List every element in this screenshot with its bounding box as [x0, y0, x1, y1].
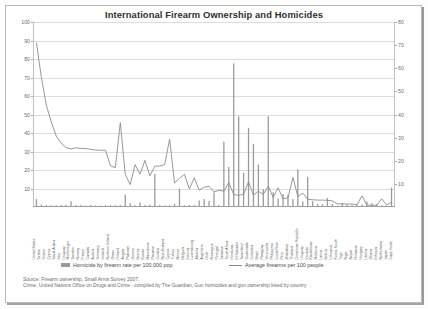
right-axis-tick — [395, 22, 397, 23]
right-axis-tick-label: 40 — [398, 112, 404, 118]
bar-72 — [391, 188, 392, 206]
category-label: Zimbabwe — [286, 244, 290, 260]
bar-40 — [233, 63, 234, 206]
category-axis-labels: United StatesSerbiaYemenCyprusSaudi Arab… — [33, 208, 395, 260]
bar-3 — [51, 205, 52, 206]
category-label: Ethiopia — [375, 247, 379, 260]
category-label: Iraq — [58, 254, 62, 260]
legend-label-homicide: Homicide by firearm rate per 100,000 pop — [73, 262, 172, 268]
source-line-2: Crime, United Nations Office on Drugs an… — [23, 283, 413, 289]
bar-27 — [169, 205, 170, 206]
left-axis-tick-label: 50 — [24, 112, 30, 118]
left-axis-tick-label: 70 — [24, 75, 30, 81]
bar-15 — [110, 205, 111, 206]
bar-0 — [36, 199, 37, 206]
bar-48 — [273, 192, 274, 206]
left-axis-tick-label: 10 — [24, 186, 30, 192]
bar-70 — [381, 205, 382, 206]
left-axis-tick-label: 20 — [24, 167, 30, 173]
category-label: Serbia — [38, 250, 42, 260]
bar-50 — [282, 194, 283, 206]
left-axis-tick-label: 60 — [24, 93, 30, 99]
category-label: Venezuela — [266, 244, 270, 260]
source-note: Source: Firearm ownership, Small Arms Su… — [23, 277, 413, 290]
right-axis-tick — [395, 45, 397, 46]
bar-46 — [263, 189, 264, 206]
bar-38 — [223, 142, 224, 206]
bar-19 — [130, 203, 131, 206]
bar-47 — [268, 116, 269, 206]
left-axis-tick-label: 100 — [21, 19, 30, 25]
bar-64 — [351, 205, 352, 206]
right-axis-tick — [395, 184, 397, 185]
bar-55 — [307, 177, 308, 206]
category-label: Turkey — [172, 249, 176, 260]
category-label: Uruguay — [301, 247, 305, 260]
bar-30 — [184, 205, 185, 206]
category-label: Bosnia — [137, 249, 141, 260]
right-axis-tick — [395, 68, 397, 69]
plot-area: 100908070605040302010 8070605040302010 — [33, 22, 395, 207]
category-label: Greece — [132, 249, 136, 260]
category-label: Thailand — [291, 247, 295, 260]
bar-54 — [302, 201, 303, 206]
category-label: Cyprus — [48, 249, 52, 260]
bar-49 — [277, 198, 278, 206]
bar-45 — [258, 165, 259, 206]
category-label: Panama — [152, 247, 156, 260]
bar-59 — [327, 198, 328, 206]
left-axis-tick-label: 80 — [24, 56, 30, 62]
bar-32 — [194, 205, 195, 206]
bar-36 — [213, 192, 214, 206]
chart-page: International Firearm Ownership and Homi… — [0, 0, 428, 309]
bar-53 — [297, 169, 298, 206]
bar-9 — [80, 205, 81, 206]
left-axis-tick — [31, 133, 33, 134]
bar-4 — [56, 205, 57, 206]
bar-29 — [179, 189, 180, 206]
right-axis-tick — [395, 91, 397, 92]
bar-25 — [159, 205, 160, 206]
category-label: United States — [33, 239, 37, 260]
bar-5 — [60, 205, 61, 206]
category-label: Dominican Republic — [296, 229, 300, 260]
bar-39 — [228, 167, 229, 206]
bar-23 — [149, 205, 150, 206]
category-label: Philippines — [271, 243, 275, 260]
category-label: Cyprus — [167, 249, 171, 260]
left-axis-tick-label: 30 — [24, 149, 30, 155]
bar-52 — [292, 199, 293, 206]
right-axis-tick-label: 20 — [398, 158, 404, 164]
legend-item-firearms: Average firearms per 100 people — [229, 262, 323, 268]
firearms-line — [36, 43, 391, 206]
bar-33 — [199, 200, 200, 206]
left-axis-tick-label: 90 — [24, 38, 30, 44]
bar-28 — [174, 204, 175, 206]
category-label: Macedonia — [147, 243, 151, 260]
category-label: Peru — [281, 253, 285, 260]
right-axis-tick-label: 60 — [398, 65, 404, 71]
bar-56 — [312, 201, 313, 206]
category-label: Netherlands — [380, 241, 384, 260]
category-label: Yemen — [43, 249, 47, 260]
plot-canvas — [33, 22, 395, 207]
left-axis-tick — [31, 115, 33, 116]
left-axis-tick — [31, 41, 33, 42]
line-swatch-icon — [229, 265, 242, 266]
right-axis-tick-label: 30 — [398, 135, 404, 141]
category-label: Cape Verde — [390, 242, 394, 261]
right-axis-tick — [395, 115, 397, 116]
bar-42 — [243, 173, 244, 206]
category-label: Paraguay — [261, 245, 265, 260]
bar-8 — [75, 205, 76, 206]
left-axis-tick — [31, 78, 33, 79]
bar-7 — [70, 201, 71, 206]
chart-legend: Homicide by firearm rate per 100,000 pop… — [33, 262, 395, 274]
category-label: Brazil — [256, 251, 260, 260]
legend-label-firearms: Average firearms per 100 people — [245, 262, 323, 268]
bar-34 — [203, 199, 204, 206]
right-axis-tick — [395, 161, 397, 162]
chart-title: International Firearm Ownership and Homi… — [0, 9, 428, 20]
series-layer — [34, 22, 394, 206]
category-label: Mexico — [177, 249, 181, 260]
